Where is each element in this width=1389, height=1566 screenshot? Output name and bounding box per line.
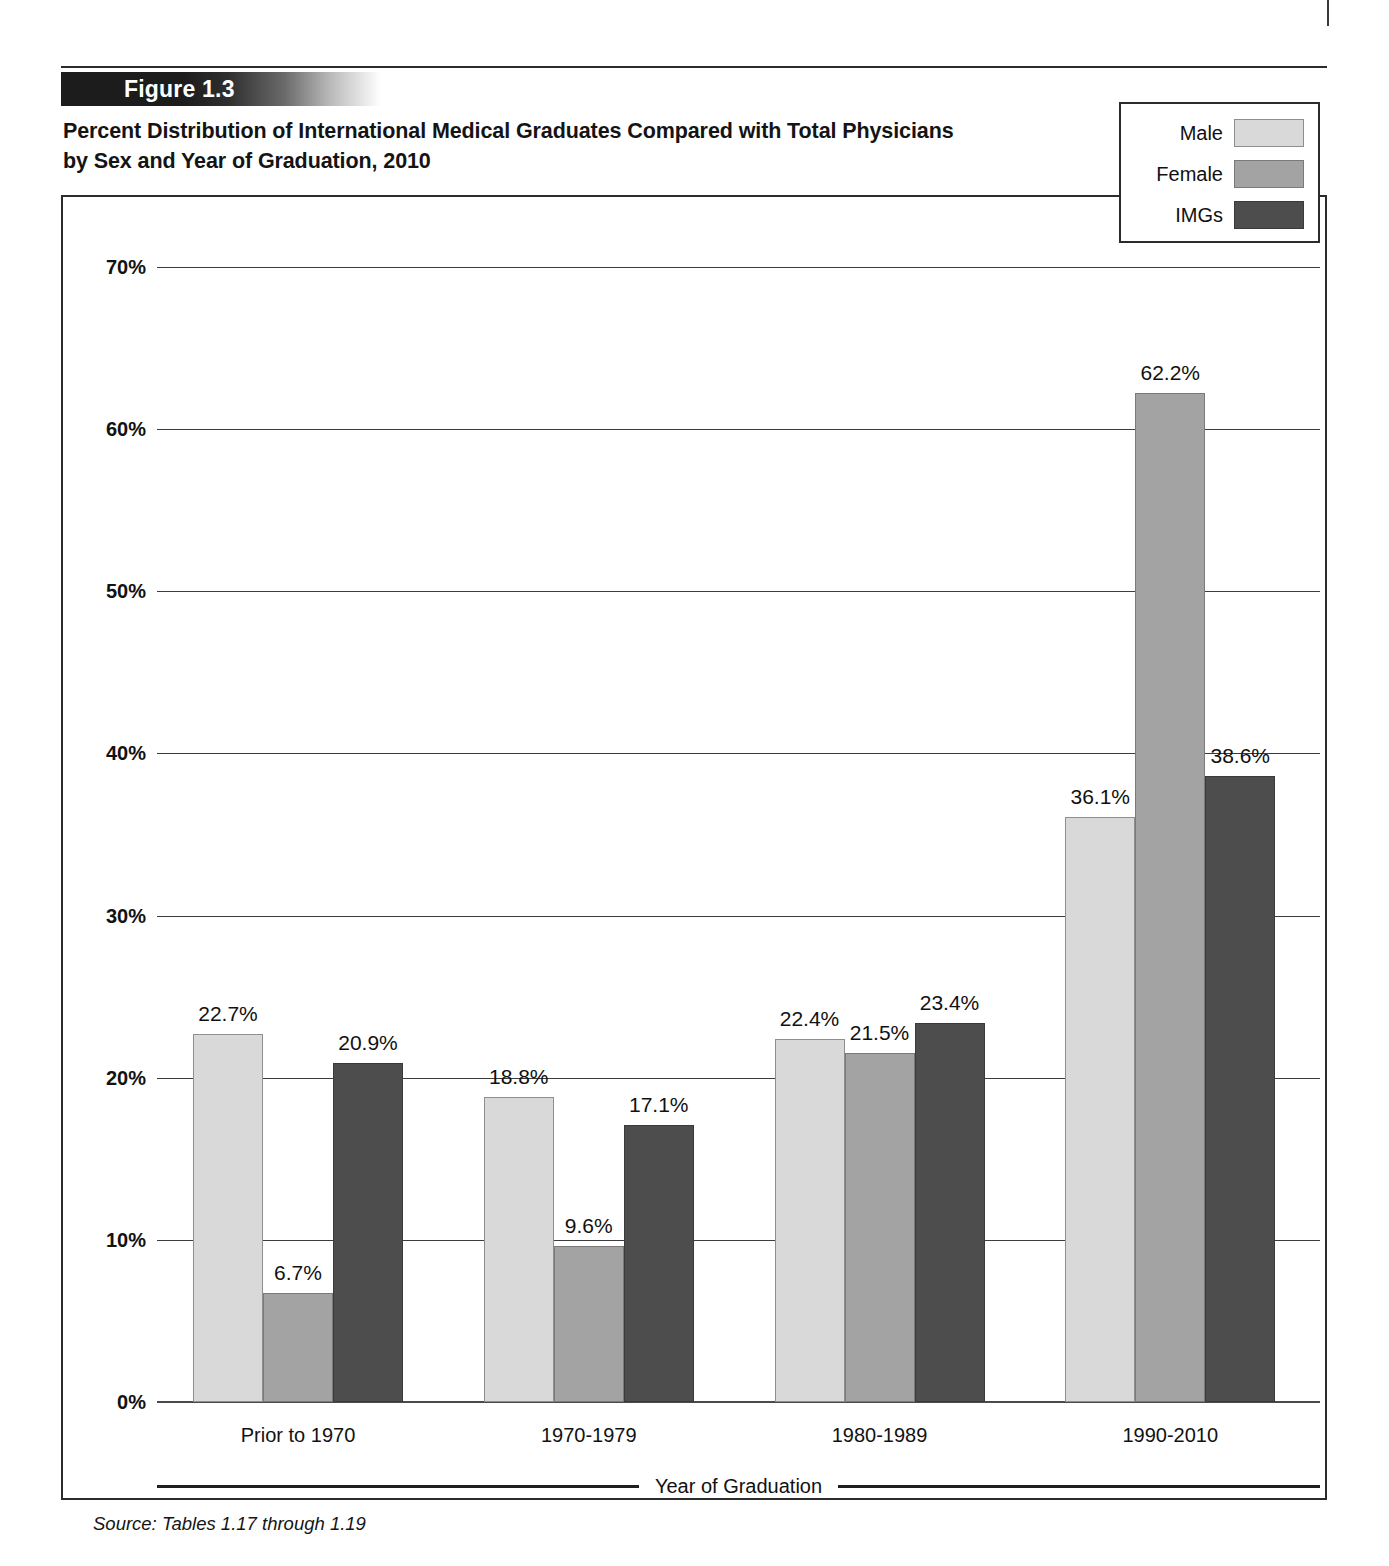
bar-value-label: 9.6%: [565, 1214, 613, 1238]
legend-swatch-male: [1234, 119, 1304, 147]
legend-label-male: Male: [1180, 122, 1223, 145]
y-axis-tick-label: 30%: [26, 904, 146, 927]
plot-area: 0%10%20%30%40%50%60%70%22.7%6.7%20.9%Pri…: [157, 267, 1320, 1402]
x-axis-category-label: 1990-2010: [1122, 1424, 1218, 1447]
x-axis-title: Year of Graduation: [639, 1475, 838, 1498]
legend-item-male: Male: [1131, 113, 1304, 153]
bar-value-label: 18.8%: [489, 1065, 549, 1089]
y-axis-tick-label: 70%: [26, 256, 146, 279]
figure-title: Percent Distribution of International Me…: [63, 116, 1083, 176]
legend-label-imgs: IMGs: [1175, 204, 1223, 227]
page-header-rule: [1327, 0, 1329, 26]
bar-value-label: 17.1%: [629, 1093, 689, 1117]
bar-female-3: [845, 1053, 915, 1402]
bar-male-3: [775, 1039, 845, 1402]
gridline-70%: [157, 267, 1320, 268]
legend-swatch-female: [1234, 160, 1304, 188]
bar-value-label: 23.4%: [920, 991, 980, 1015]
figure-title-line-2: by Sex and Year of Graduation, 2010: [63, 146, 1083, 176]
bar-female-4: [1135, 393, 1205, 1402]
bar-male-1: [193, 1034, 263, 1402]
x-axis-rule-right: [838, 1485, 1320, 1488]
y-axis-tick-label: 40%: [26, 742, 146, 765]
bar-imgs-2: [624, 1125, 694, 1402]
bar-value-label: 38.6%: [1210, 744, 1270, 768]
bar-imgs-3: [915, 1023, 985, 1402]
bar-value-label: 62.2%: [1140, 361, 1200, 385]
chart-legend: MaleFemaleIMGs: [1119, 102, 1320, 243]
figure-container: Figure 1.3 Percent Distribution of Inter…: [61, 66, 1327, 1500]
x-axis-category-label: 1980-1989: [832, 1424, 928, 1447]
bar-value-label: 22.4%: [780, 1007, 840, 1031]
figure-top-rule: [61, 66, 1327, 68]
y-axis-tick-label: 60%: [26, 418, 146, 441]
page-header-artifact: [905, 0, 1085, 10]
bar-value-label: 6.7%: [274, 1261, 322, 1285]
x-axis-title-row: Year of Graduation: [157, 1473, 1320, 1499]
x-axis-category-label: 1970-1979: [541, 1424, 637, 1447]
legend-label-female: Female: [1156, 163, 1223, 186]
chart-frame: 0%10%20%30%40%50%60%70%22.7%6.7%20.9%Pri…: [61, 195, 1327, 1500]
x-axis-rule-left: [157, 1485, 639, 1488]
figure-title-line-1: Percent Distribution of International Me…: [63, 116, 1083, 146]
bar-imgs-1: [333, 1063, 403, 1402]
legend-item-female: Female: [1131, 154, 1304, 194]
legend-item-imgs: IMGs: [1131, 195, 1304, 235]
y-axis-tick-label: 50%: [26, 580, 146, 603]
bar-imgs-4: [1205, 776, 1275, 1402]
y-axis-tick-label: 20%: [26, 1066, 146, 1089]
y-axis-tick-label: 0%: [26, 1391, 146, 1414]
bar-value-label: 36.1%: [1070, 785, 1130, 809]
bar-value-label: 21.5%: [850, 1021, 910, 1045]
x-axis-category-label: Prior to 1970: [241, 1424, 356, 1447]
bar-female-1: [263, 1293, 333, 1402]
source-note: Source: Tables 1.17 through 1.19: [93, 1513, 366, 1535]
bar-value-label: 22.7%: [198, 1002, 258, 1026]
bar-male-2: [484, 1097, 554, 1402]
bar-value-label: 20.9%: [338, 1031, 398, 1055]
legend-swatch-imgs: [1234, 201, 1304, 229]
bar-male-4: [1065, 817, 1135, 1402]
bar-female-2: [554, 1246, 624, 1402]
y-axis-tick-label: 10%: [26, 1228, 146, 1251]
figure-number-label: Figure 1.3: [124, 72, 235, 106]
